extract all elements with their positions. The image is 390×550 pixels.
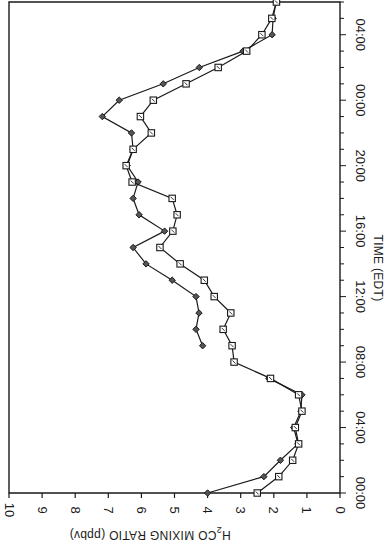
diamond-marker <box>196 64 202 70</box>
time-tick-label: 04:00 <box>353 411 368 444</box>
value-tick-label: 7 <box>101 506 116 513</box>
value-tick-label: 0 <box>333 506 348 513</box>
time-tick-label: 00:00 <box>353 477 368 510</box>
value-tick-label: 4 <box>200 506 215 513</box>
diamond-marker <box>161 228 167 234</box>
value-tick-label: 10 <box>2 503 17 517</box>
time-tick-label: 04:00 <box>353 18 368 51</box>
time-axis: 00:0004:0008:0012:0016:0020:0000:0004:00 <box>340 2 368 509</box>
plot-frame <box>9 2 340 493</box>
mixing-ratio-axis-title: H2CO MIXING RATIO (ppbv) <box>69 525 230 542</box>
diamond-marker <box>136 212 142 218</box>
value-tick-label: 6 <box>134 506 149 513</box>
square-series-line <box>126 2 302 493</box>
axis-titles: TIME (EDT)H2CO MIXING RATIO (ppbv) <box>69 235 385 543</box>
diamond-series <box>99 0 305 496</box>
diamond-marker <box>128 130 134 136</box>
value-tick-label: 2 <box>266 506 281 513</box>
value-tick-label: 3 <box>233 506 248 513</box>
time-tick-label: 12:00 <box>353 280 368 313</box>
time-tick-label: 00:00 <box>353 84 368 117</box>
data-series <box>99 0 305 496</box>
value-tick-label: 9 <box>35 506 50 513</box>
time-tick-label: 20:00 <box>353 149 368 182</box>
value-tick-label: 5 <box>167 506 182 513</box>
diamond-marker <box>160 81 166 87</box>
h2co-mixing-ratio-chart: 012345678910 00:0004:0008:0012:0016:0020… <box>0 0 390 550</box>
diamond-marker <box>130 195 136 201</box>
plot-border <box>9 2 340 493</box>
value-tick-label: 1 <box>299 506 314 513</box>
diamond-marker <box>169 277 175 283</box>
diamond-series-line <box>208 378 302 493</box>
diamond-marker <box>199 343 205 349</box>
diamond-marker <box>193 326 199 332</box>
time-axis-title: TIME (EDT) <box>371 235 385 302</box>
time-tick-label: 16:00 <box>353 215 368 248</box>
diamond-marker <box>204 490 210 496</box>
mixing-ratio-axis: 012345678910 <box>2 493 348 517</box>
diamond-marker <box>196 310 202 316</box>
value-tick-label: 8 <box>68 506 83 513</box>
square-series <box>123 0 305 496</box>
diamond-marker <box>269 32 275 38</box>
time-tick-label: 08:00 <box>353 346 368 379</box>
